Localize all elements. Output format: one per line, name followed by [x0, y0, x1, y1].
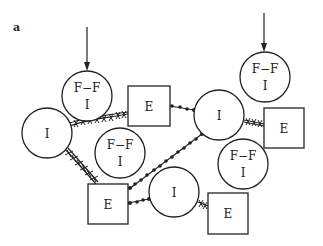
- arrowhead-icon: [84, 62, 90, 71]
- arrow-top-right: [261, 13, 267, 52]
- arrowhead-icon: [261, 43, 267, 52]
- node-label-line2: I: [263, 79, 268, 93]
- node-label: I: [45, 127, 50, 141]
- node-label-line1: F−F: [252, 62, 279, 76]
- arrow-top-left: [84, 27, 90, 71]
- node-label-line1: F−F: [230, 149, 257, 163]
- connection-beaded-e-top-i-right: [170, 104, 196, 112]
- node-label-line1: F−F: [107, 138, 134, 152]
- node-e-right: E: [264, 108, 304, 148]
- node-label: I: [172, 186, 177, 200]
- node-e-bottom-right: E: [208, 193, 248, 234]
- node-e-bottom-left: E: [88, 184, 128, 224]
- node-i-bottom: I: [149, 167, 199, 217]
- node-ffi-top-right: F−F I: [240, 52, 290, 102]
- node-e-top: E: [128, 86, 170, 126]
- node-ffi-right-lower: F−F I: [218, 139, 268, 189]
- node-label-line2: I: [241, 166, 246, 180]
- connection-cross-i-bottom-e-bottom-right: [198, 200, 208, 209]
- diagram-canvas: a: [0, 0, 323, 246]
- node-i-left: I: [22, 108, 72, 158]
- node-label: E: [280, 122, 289, 136]
- node-label: I: [217, 109, 222, 123]
- connection-cross-i-left-e-bottom-left: [65, 148, 98, 184]
- node-i-right: I: [194, 90, 244, 140]
- node-label: E: [104, 198, 113, 212]
- panel-label: a: [13, 21, 20, 34]
- node-ffi-middle: F−F I: [95, 128, 145, 178]
- node-ffi-top-left: F−F I: [62, 71, 112, 121]
- node-label: E: [145, 100, 154, 114]
- node-label-line1: F−F: [74, 81, 101, 95]
- connection-beaded-e-bottom-left-i-bottom: [128, 197, 151, 205]
- node-label-line2: I: [118, 155, 123, 169]
- connection-cross-i-right-e-right: [244, 118, 264, 127]
- node-label-line2: I: [85, 98, 90, 112]
- node-label: E: [224, 207, 233, 221]
